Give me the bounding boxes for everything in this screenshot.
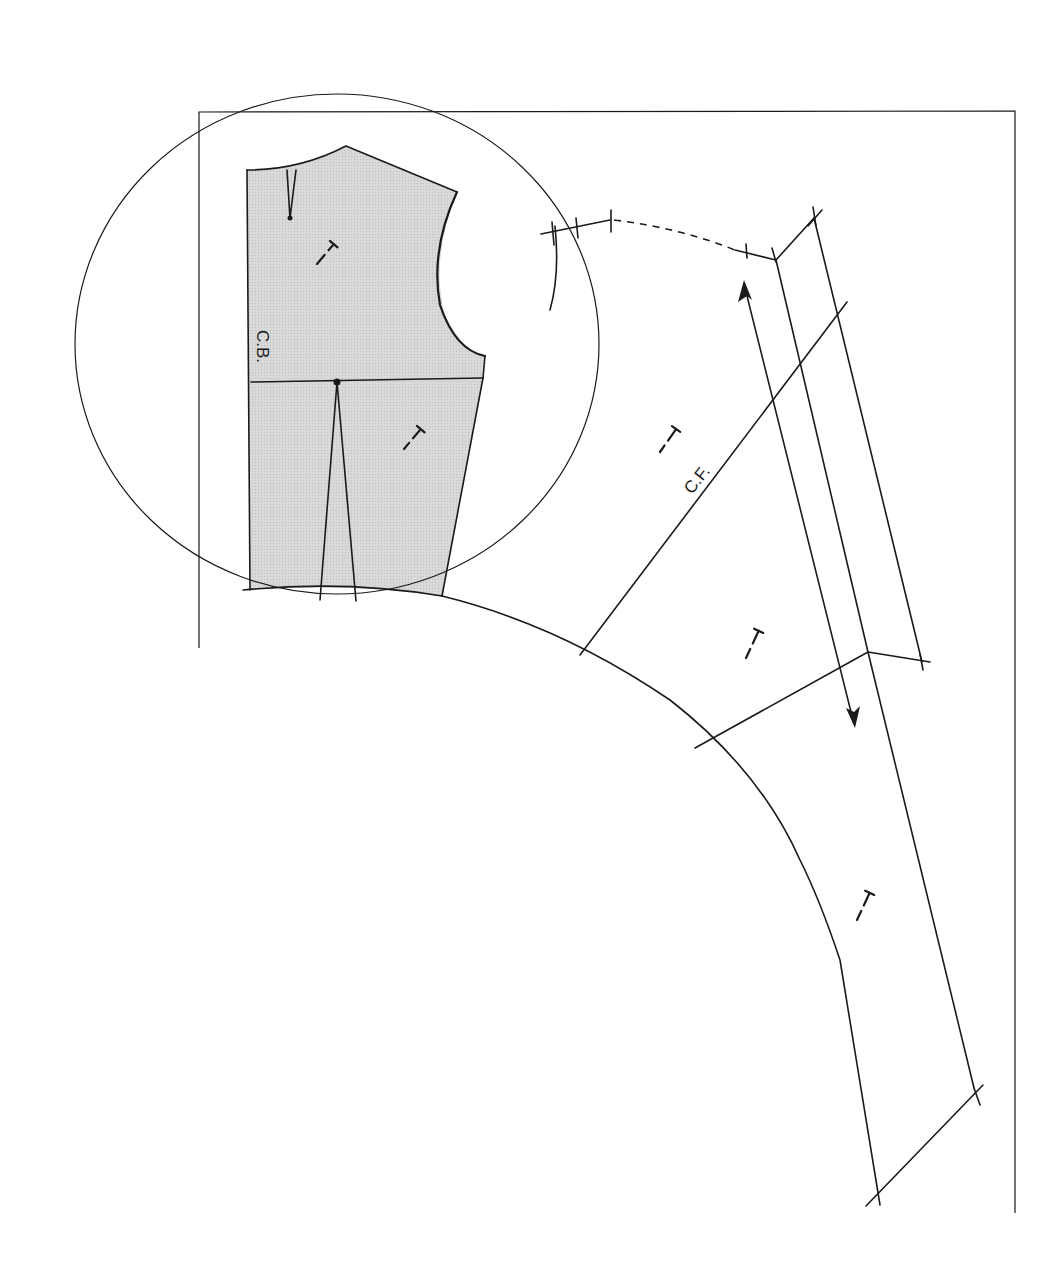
- grain-mark-icon: [656, 426, 680, 455]
- grainline-arrow: [738, 280, 860, 728]
- center-back-label: C.B.: [253, 330, 272, 363]
- neckline: [541, 210, 776, 262]
- dart-point-icon: [288, 216, 293, 221]
- back-bodice-block: C.B.: [243, 146, 485, 601]
- facing-band: [580, 207, 983, 1206]
- center-front: C.F.: [680, 462, 714, 498]
- grain-mark-icon: [741, 629, 763, 660]
- sewing-pattern-diagram: C.B.: [0, 0, 1061, 1267]
- grain-mark-icon: [852, 891, 874, 922]
- center-front-label: C.F.: [680, 462, 714, 498]
- front-curve: [442, 596, 880, 1205]
